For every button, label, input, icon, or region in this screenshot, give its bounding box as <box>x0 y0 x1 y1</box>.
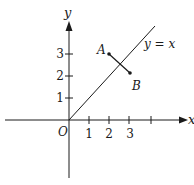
x-tick-label: 3 <box>126 127 134 141</box>
x-tick-label: 1 <box>85 127 93 141</box>
line-label: y = x <box>143 37 175 51</box>
point-a-label: A <box>96 43 106 57</box>
point-b-label: B <box>131 79 141 93</box>
x-axis <box>5 117 188 124</box>
y-axis <box>66 21 73 178</box>
y-tick-label: 1 <box>56 91 64 105</box>
y-tick-label: 2 <box>56 69 64 83</box>
y-axis-label: y <box>63 5 72 20</box>
x-axis-arrow-icon <box>179 117 188 124</box>
origin-label: O <box>58 125 68 139</box>
line-y-equals-x <box>69 26 155 120</box>
y-tick-label: 3 <box>56 47 64 61</box>
point-a <box>107 52 111 56</box>
y-axis-arrow-icon <box>66 21 73 31</box>
point-b <box>128 71 132 75</box>
x-axis-label: x <box>188 112 194 127</box>
x-tick-label: 2 <box>105 127 113 141</box>
coordinate-diagram: 1 2 3 1 2 3 x y O y = x A B <box>0 0 194 185</box>
